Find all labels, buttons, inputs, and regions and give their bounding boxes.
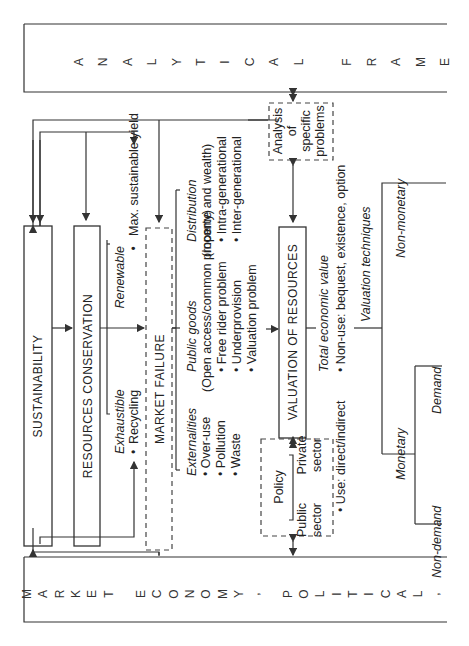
- public-goods-label: Public goods: [185, 300, 199, 372]
- frame-letter: I: [218, 60, 232, 63]
- frame-letter: F: [340, 58, 354, 65]
- frame-letter: ,: [248, 592, 262, 595]
- frame-letter: M: [20, 589, 34, 599]
- renewable-item: Max. sustainable yield: [127, 113, 141, 236]
- frame-letter: A: [389, 58, 403, 66]
- distribution-item-1: • Intra-generational: [215, 136, 229, 242]
- frame-letter: C: [150, 589, 164, 598]
- resources-conservation-box: RESOURCES CONSERVATION: [74, 226, 100, 546]
- monetary-label: Monetary: [394, 427, 408, 480]
- non-monetary-label: Non-monetary: [394, 178, 408, 258]
- frame-letter: O: [167, 589, 181, 598]
- tev-non-use: • Non-use: bequest, existence, option: [334, 165, 348, 372]
- frame-letter: M: [414, 57, 428, 67]
- frame-letter: Y: [170, 58, 184, 66]
- renewable-bullet: •: [127, 246, 141, 250]
- sustainability-framework-diagram: ANALYTICAL FRAME MARKET ECONOMY, POLITIC…: [0, 0, 469, 646]
- sustainability-label: SUSTAINABILITY: [31, 335, 45, 438]
- frame-letter: E: [438, 58, 452, 66]
- tev-use: • Use: direct/indirect: [334, 400, 348, 512]
- policy-public-2: sector: [310, 503, 324, 537]
- frame-letter: C: [243, 57, 257, 66]
- externalities-item-1: • Over-use: [199, 417, 213, 476]
- frame-letter: A: [121, 58, 135, 66]
- frame-letter: E: [134, 590, 148, 598]
- externalities-item-3: • Waste: [229, 433, 243, 476]
- frame-letter: A: [395, 590, 409, 598]
- frame-letter: R: [53, 589, 67, 598]
- valuation-of-resources-box: VALUATION OF RESOURCES: [279, 227, 306, 438]
- externalities-label: Externalities: [185, 408, 199, 476]
- market-failure-box: MARKET FAILURE: [146, 228, 172, 550]
- frame-letter: R: [365, 57, 379, 66]
- frame-letter: T: [346, 590, 360, 598]
- policy-box: Policy Public sector Private sector: [261, 436, 333, 538]
- sustainability-box: SUSTAINABILITY: [24, 226, 52, 546]
- analysis-line-2: of: [285, 125, 299, 136]
- public-goods-item-1: • Free rider problem: [215, 261, 229, 372]
- frame-letter: L: [145, 58, 159, 65]
- policy-private-2: sector: [310, 438, 324, 472]
- market-failure-label: MARKET FAILURE: [153, 334, 167, 444]
- renewable-label: Renewable: [113, 246, 127, 309]
- frame-letter: N: [183, 590, 197, 599]
- frame-letter: P: [281, 590, 295, 598]
- distribution-subtitle: (Income and wealth): [200, 144, 214, 257]
- public-goods-item-3: • Valuation problem: [245, 264, 259, 372]
- frame-letter: L: [411, 590, 425, 597]
- analysis-box: Analysis of specific problems: [269, 103, 333, 160]
- frame-letter: O: [199, 589, 213, 598]
- market-economy-frame-box: MARKET ECONOMY, POLITICAL,: [20, 557, 447, 622]
- frame-letter: M: [216, 589, 230, 599]
- analysis-line-3: specific: [299, 110, 313, 152]
- distribution-item-2: • Inter-generational: [230, 136, 244, 242]
- frame-letter: O: [297, 589, 311, 598]
- frame-letter: I: [330, 592, 344, 595]
- frame-letter: T: [102, 590, 116, 598]
- distribution-label: Distribution: [185, 179, 199, 242]
- non-demand-label: Non-demand: [430, 505, 444, 578]
- policy-public-1: Public: [295, 503, 309, 537]
- policy-private-1: Private: [295, 436, 309, 475]
- frame-letter: Y: [232, 590, 246, 598]
- total-economic-value-label: Total economic value: [317, 255, 331, 372]
- demand-label: Demand: [430, 366, 444, 414]
- analysis-line-1: Analysis: [271, 108, 285, 155]
- frame-letter: ,: [428, 592, 442, 595]
- policy-label: Policy: [272, 470, 286, 504]
- analytical-frame-box: ANALYTICAL FRAME: [24, 24, 452, 92]
- exhaustible-label: Exhaustible: [113, 389, 127, 454]
- frame-letter: A: [267, 58, 281, 66]
- valuation-of-resources-label: VALUATION OF RESOURCES: [286, 244, 300, 421]
- frame-letter: I: [362, 592, 376, 595]
- exhaustible-bullet: •: [127, 450, 141, 454]
- resources-conservation-label: RESOURCES CONSERVATION: [81, 294, 95, 478]
- frame-letter: L: [313, 590, 327, 597]
- frame-letter: K: [69, 590, 83, 598]
- valuation-techniques-label: Valuation techniques: [359, 206, 373, 322]
- externalities-item-2: • Pollution: [214, 420, 228, 476]
- frame-letter: E: [85, 590, 99, 598]
- frame-letter: C: [379, 589, 393, 598]
- frame-letter: A: [36, 590, 50, 598]
- frame-letter: N: [96, 58, 110, 67]
- exhaustible-item: Recycling: [127, 390, 141, 444]
- frame-letter: L: [292, 58, 306, 65]
- frame-letter: T: [194, 58, 208, 66]
- analysis-line-4: problems: [313, 105, 327, 156]
- public-goods-item-2: • Underprovision: [230, 280, 244, 372]
- frame-letter: A: [72, 58, 86, 66]
